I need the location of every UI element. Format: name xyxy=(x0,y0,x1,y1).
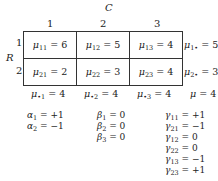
cell-means-table: μ11 = 6 μ12 = 5 μ13 = 4 μ21 = 2 μ22 = 3 … xyxy=(23,31,183,86)
row-mean-2: μ2• = 3 xyxy=(184,66,218,79)
cell-mu-21: μ21 = 2 xyxy=(24,59,77,86)
cell-mu-13: μ13 = 4 xyxy=(130,32,183,59)
col-header-1: 1 xyxy=(47,18,53,29)
col-header-3: 3 xyxy=(154,18,160,29)
cell-mu-12: μ12 = 5 xyxy=(77,32,130,59)
row-header-2: 2 xyxy=(16,65,22,76)
table-row: μ11 = 6 μ12 = 5 μ13 = 4 xyxy=(24,32,183,59)
col-header-2: 2 xyxy=(100,18,106,29)
col-mean-3: μ•3 = 4 xyxy=(137,88,171,101)
col-mean-1: μ•1 = 4 xyxy=(31,88,65,101)
cell-mu-22: μ22 = 3 xyxy=(77,59,130,86)
cell-mu-23: μ23 = 4 xyxy=(130,59,183,86)
row-mean-1: μ1• = 5 xyxy=(184,39,218,52)
alpha-2: α2 = −1 xyxy=(27,121,64,133)
col-mean-2: μ•2 = 4 xyxy=(84,88,118,101)
gamma-23: γ23 = +1 xyxy=(165,165,205,177)
factor-r-label: R xyxy=(6,52,14,63)
row-header-1: 1 xyxy=(16,37,22,48)
table-row: μ21 = 2 μ22 = 3 μ23 = 4 xyxy=(24,59,183,86)
cell-mu-11: μ11 = 6 xyxy=(24,32,77,59)
factor-c-label: C xyxy=(105,2,113,13)
beta-3: β3 = 0 xyxy=(97,132,125,144)
grand-mean: μ = 4 xyxy=(190,88,216,99)
